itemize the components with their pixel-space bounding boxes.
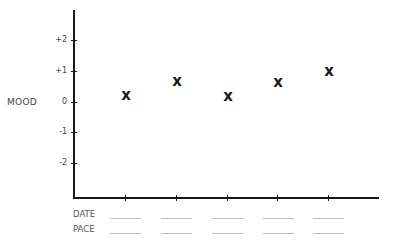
date-blank (212, 218, 243, 219)
pace-blank (263, 233, 294, 234)
pace-blank (161, 233, 192, 234)
x-tick (176, 195, 177, 201)
data-point-marker: x (270, 75, 286, 90)
pace-blank (212, 233, 243, 234)
date-blank (110, 218, 141, 219)
data-point-marker: x (118, 88, 134, 103)
x-tick (125, 195, 126, 201)
y-axis-label: MOOD (7, 97, 37, 107)
data-point-marker: x (169, 74, 185, 89)
y-tick (71, 132, 77, 133)
date-blank (161, 218, 192, 219)
y-tick-label: -1 (43, 127, 67, 136)
pace-blank (110, 233, 141, 234)
y-tick-label: -2 (43, 158, 67, 167)
date-blank (313, 218, 344, 219)
y-tick (71, 71, 77, 72)
x-axis (73, 197, 379, 199)
y-tick (71, 40, 77, 41)
pace-blank (313, 233, 344, 234)
date-blank (263, 218, 294, 219)
x-tick (227, 195, 228, 201)
x-tick (277, 195, 278, 201)
y-tick (71, 102, 77, 103)
pace-row-label: PACE (73, 224, 95, 234)
data-point-marker: x (220, 89, 236, 104)
x-tick (328, 195, 329, 201)
y-tick-label: +1 (43, 66, 67, 75)
data-point-marker: x (321, 64, 337, 79)
y-axis (73, 10, 75, 199)
y-tick-label: 0 (43, 97, 67, 106)
date-row-label: DATE (73, 209, 95, 219)
y-tick (71, 163, 77, 164)
y-tick-label: +2 (43, 35, 67, 44)
